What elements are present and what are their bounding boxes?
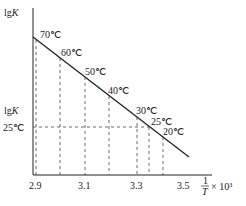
label-70: 70℃ [40,29,61,40]
svg-text:T: T [202,186,209,197]
label-60: 60℃ [61,47,82,58]
x-tick-3.3: 3.3 [130,180,143,191]
label-30: 30℃ [136,105,157,116]
y-mark-25: 25℃ [3,122,24,133]
label-40: 40℃ [108,85,129,96]
x-axis-label: 1 T × 10³ [201,175,232,197]
chart: lgK lgK 25℃ 70℃ 60℃ 50℃ 40℃ 30℃ 25℃ 20℃ … [0,0,246,206]
y-axis-label: lgK [4,7,20,18]
x-tick-2.9: 2.9 [29,180,42,191]
svg-text:1: 1 [203,175,208,186]
svg-text:× 10³: × 10³ [211,181,232,192]
lgk-line [33,37,189,157]
x-tick-3.5: 3.5 [177,180,190,191]
x-tick-3.1: 3.1 [78,180,91,191]
label-50: 50℃ [85,66,106,77]
label-20: 20℃ [163,126,184,137]
y-mark-lgk: lgK [4,105,20,116]
